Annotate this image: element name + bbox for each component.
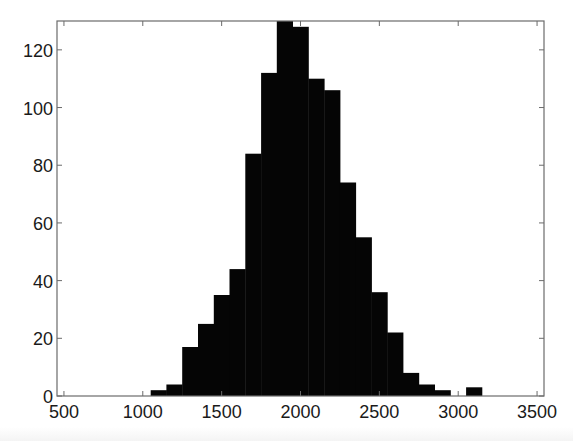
- histogram-bars: [151, 21, 483, 396]
- histogram-bar: [356, 237, 372, 396]
- histogram-bar: [230, 269, 246, 396]
- x-tick-label: 3500: [517, 402, 557, 422]
- histogram-bar: [245, 154, 261, 396]
- histogram-bar: [372, 292, 388, 396]
- x-tick-label: 2500: [359, 402, 399, 422]
- histogram-bar: [214, 295, 230, 396]
- histogram-bar: [166, 385, 182, 397]
- histogram-bar: [151, 390, 167, 396]
- y-tick-label: 20: [33, 329, 53, 349]
- histogram-bar: [419, 385, 435, 397]
- histogram-bar: [435, 390, 451, 396]
- histogram-bar: [198, 324, 214, 396]
- histogram-bar: [293, 27, 309, 396]
- x-tick-label: 2000: [280, 402, 320, 422]
- x-tick-label: 500: [49, 402, 79, 422]
- histogram-bar: [277, 21, 293, 396]
- histogram-bar: [387, 333, 403, 397]
- histogram-bar: [182, 347, 198, 396]
- y-tick-label: 120: [23, 41, 53, 61]
- histogram-bar: [403, 373, 419, 396]
- chart-canvas: 500100015002000250030003500 020406080100…: [0, 0, 573, 441]
- x-tick-label: 1000: [123, 402, 163, 422]
- y-tick-label: 80: [33, 156, 53, 176]
- y-tick-label: 0: [43, 387, 53, 407]
- histogram-bar: [324, 90, 340, 396]
- y-tick-label: 100: [23, 99, 53, 119]
- histogram-bar: [466, 387, 482, 396]
- x-tick-label: 1500: [202, 402, 242, 422]
- y-tick-label: 60: [33, 214, 53, 234]
- bottom-band: [0, 427, 573, 441]
- histogram-bar: [340, 183, 356, 397]
- x-tick-label: 3000: [438, 402, 478, 422]
- y-tick-label: 40: [33, 272, 53, 292]
- histogram-bar: [308, 79, 324, 396]
- histogram-bar: [261, 73, 277, 396]
